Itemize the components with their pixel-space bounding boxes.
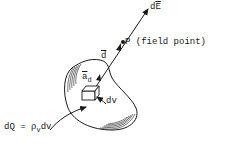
- dq-pointer: [50, 107, 86, 130]
- field-point-label: P (field point): [125, 38, 206, 47]
- left-shading: [68, 64, 81, 92]
- bottom-shading: [100, 114, 135, 129]
- diagram-canvas: dE P (field point) d ad dv dQ = ρvdv: [0, 0, 225, 152]
- charge-equation: dQ = ρvdv: [4, 123, 51, 132]
- dv-pointer: [97, 97, 106, 104]
- d-vector-arrowhead: [116, 43, 121, 51]
- dv-label: dv: [106, 97, 117, 106]
- unit-vector-arrowhead: [96, 74, 101, 81]
- de-label: dE: [150, 3, 161, 12]
- volume-element-cube: [82, 86, 99, 100]
- d-vector-line: [95, 9, 148, 88]
- unit-vector-label: ad: [82, 73, 92, 82]
- d-vector-label: d: [101, 52, 106, 61]
